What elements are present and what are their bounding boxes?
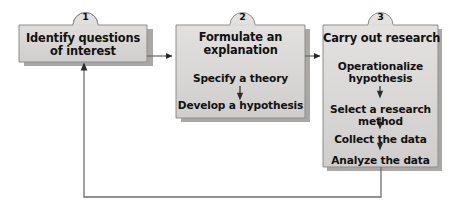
box-1-number: 1 xyxy=(73,12,98,22)
box-3-step-4: Analyze the data xyxy=(323,154,438,167)
box-2-step-1: Specify a theory xyxy=(176,72,305,85)
flowchart-diagram: 1 Identify questions of interest 2 Formu… xyxy=(0,0,462,219)
box-3-step-2-line-2: method xyxy=(323,115,438,128)
box-2-number: 2 xyxy=(230,12,255,22)
box-3-step-2-line-1: Select a research xyxy=(323,103,438,116)
box-3-step-3: Collect the data xyxy=(323,133,438,146)
box-2-heading-line-2: explanation xyxy=(176,44,305,57)
box-2-step-2: Develop a hypothesis xyxy=(172,99,309,112)
box-3-step-1-line-2: hypothesis xyxy=(323,72,438,85)
box-3-heading-line-1: Carry out research xyxy=(323,32,438,45)
box-3-number: 3 xyxy=(368,12,393,22)
box-1-heading-line-2: of interest xyxy=(19,45,147,58)
box-3-step-1-line-1: Operationalize xyxy=(323,60,438,73)
